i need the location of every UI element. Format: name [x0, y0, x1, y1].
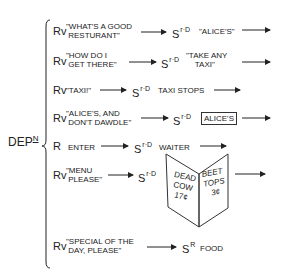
- row5-quote: ENTER: [68, 143, 95, 152]
- row4-stimulus: Sr·D: [173, 113, 191, 127]
- row4-response: Rv: [53, 113, 66, 124]
- row2-response: Rv: [53, 56, 66, 67]
- diagram-lines: [0, 0, 284, 271]
- row2-quote: "HOW DO I GET THERE": [66, 51, 117, 69]
- root-text: DEP: [8, 135, 33, 149]
- row7-response: Rv: [53, 241, 66, 252]
- row5-stimulus: Sr·D: [134, 141, 152, 155]
- row2-result: "TAKE ANY TAXI": [186, 51, 227, 69]
- row7-result: FOOD: [200, 244, 223, 253]
- root-label: DEPN: [8, 135, 38, 148]
- row6-response: Rv: [53, 170, 66, 181]
- menu-right-page: BEET TOPS 3¢: [199, 166, 230, 200]
- row1-response: Rv: [53, 26, 66, 37]
- row3-result: TAXI STOPS: [158, 86, 204, 95]
- row2-stimulus: Sr·D: [161, 56, 179, 70]
- row1-quote: "WHAT'S A GOOD RESTURANT": [66, 22, 132, 40]
- row4-quote: "ALICE'S, AND DON'T DAWDLE": [66, 109, 131, 127]
- root-superscript: N: [33, 134, 39, 143]
- row7-stimulus: SR: [182, 241, 195, 255]
- row1-result: "ALICE'S": [199, 27, 235, 36]
- row6-stimulus: Sr·D: [138, 170, 156, 184]
- row5-response: R: [53, 141, 61, 152]
- row6-quote: "MENU PLEASE": [66, 166, 102, 184]
- row7-quote: "SPECIAL OF THE DAY, PLEASE": [66, 237, 134, 255]
- row5-result: WAITER: [159, 143, 190, 152]
- row4-result-boxed: ALICE'S: [201, 112, 237, 125]
- row1-stimulus: Sr·D: [172, 26, 190, 40]
- row3-response: Rv: [53, 85, 66, 96]
- brace: [42, 20, 50, 268]
- row3-quote: "TAXI!": [66, 86, 91, 95]
- row3-stimulus: Sr·D: [132, 85, 150, 99]
